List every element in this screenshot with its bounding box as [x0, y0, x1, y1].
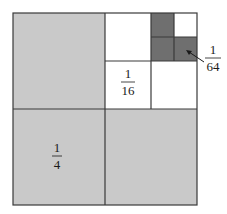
- sixtyfourth-bottom-left: [151, 37, 174, 61]
- sixteenth-top-left: [105, 13, 151, 61]
- sixteenth-denominator: 16: [122, 83, 136, 98]
- sixtyfourth-bottom-right: [174, 37, 197, 61]
- sixtyfourth-denominator: 64: [207, 59, 221, 74]
- label-one-sixtyfourth: 1 64: [205, 42, 221, 74]
- quarter-top-left: [13, 13, 105, 109]
- geometric-series-square-diagram: 1 4 1 16 1 64: [0, 0, 227, 214]
- sixteenth-bottom-right: [151, 61, 197, 109]
- sixtyfourth-top-right: [174, 13, 197, 37]
- quarter-denominator: 4: [54, 157, 61, 172]
- sixtyfourth-top-left: [151, 13, 174, 37]
- sixteenth-numerator: 1: [125, 66, 132, 81]
- sixtyfourth-numerator: 1: [210, 42, 217, 57]
- quarter-bottom-right: [105, 109, 197, 205]
- quarter-numerator: 1: [54, 140, 61, 155]
